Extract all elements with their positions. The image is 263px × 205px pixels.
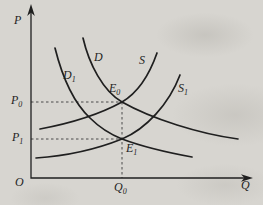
origin-label: O [15, 176, 24, 188]
supply-curve-s1 [36, 75, 180, 158]
supply-demand-diagram: P Q O P0 P1 Q0 E0 E1 D D1 S S1 [0, 0, 263, 205]
equilibrium-e1-label: E1 [126, 142, 137, 154]
diagram-canvas [0, 0, 263, 205]
supply-curve-s-label: S [139, 54, 145, 66]
demand-curve-d1-label: D1 [63, 69, 76, 81]
x-axis-label: Q [241, 179, 250, 191]
axes-lines [31, 9, 249, 178]
price-p1-label: P1 [12, 131, 23, 143]
supply-curve-s1-label: S1 [178, 82, 188, 94]
demand-curve-d-label: D [94, 51, 103, 63]
equilibrium-e0-label: E0 [109, 82, 120, 94]
price-p0-label: P0 [11, 94, 22, 106]
quantity-q0-label: Q0 [114, 181, 127, 193]
y-axis-label: P [14, 14, 21, 26]
demand-curve-d [83, 38, 238, 139]
